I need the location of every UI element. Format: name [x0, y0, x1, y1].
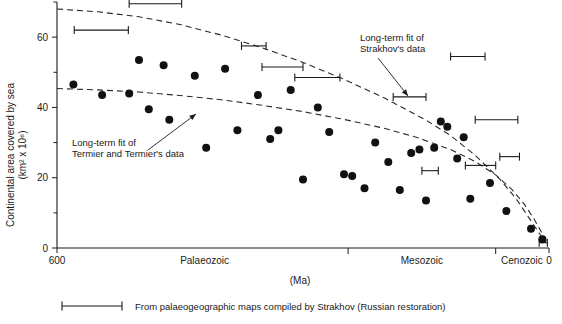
- strakhov-fit-annotation: Long-term fit ofStrakhov's data: [360, 32, 426, 96]
- error-bar: [465, 161, 495, 169]
- data-point: [502, 207, 510, 215]
- data-point: [98, 91, 106, 99]
- data-point: [191, 72, 199, 80]
- data-point: [361, 184, 369, 192]
- figure-continental-area-covered-by-sea: Continental area covered by sea (km² x 1…: [0, 0, 562, 324]
- x-tick-label-0: 0: [546, 255, 552, 266]
- x-axis-title: (Ma): [290, 275, 311, 286]
- fit-curves: [57, 9, 547, 244]
- x-axis-ticks: [57, 248, 549, 254]
- data-point: [384, 158, 392, 166]
- legend-error-bar-marker: [62, 302, 122, 311]
- data-point: [396, 186, 404, 194]
- y-axis-ticks: [52, 2, 57, 248]
- data-point: [407, 149, 415, 157]
- data-point: [69, 81, 77, 89]
- data-point: [348, 172, 356, 180]
- data-point: [254, 91, 262, 99]
- data-point: [299, 176, 307, 184]
- data-point: [125, 89, 133, 97]
- error-bar: [500, 153, 520, 161]
- era-labels: PalaeozoicMesozoicCenozoic: [180, 255, 543, 266]
- fit-curve-termier: [57, 89, 547, 244]
- y-tick-label: 0: [42, 243, 48, 254]
- axes: [57, 2, 549, 248]
- fit-curve-strakhov: [57, 9, 546, 242]
- data-point: [233, 126, 241, 134]
- x-tick-label-600: 600: [49, 255, 66, 266]
- annotation-arrowhead: [402, 89, 408, 96]
- data-point: [460, 133, 468, 141]
- data-point: [527, 225, 535, 233]
- data-point: [443, 123, 451, 131]
- annotation-line1: Long-term fit of: [360, 32, 424, 43]
- error-bar: [262, 63, 303, 71]
- era-label: Cenozoic: [501, 255, 543, 266]
- data-point: [145, 105, 153, 113]
- y-axis-title: Continental area covered by sea (km² x 1…: [5, 83, 28, 227]
- y-axis-title-line1: Continental area covered by sea: [5, 83, 16, 227]
- legend-label: From palaeogeographic maps compiled by S…: [135, 301, 445, 312]
- y-tick-label: 20: [37, 172, 49, 183]
- data-point: [274, 126, 282, 134]
- data-point: [314, 103, 322, 111]
- data-point: [453, 154, 461, 162]
- termier-fit-annotation: Long-term fit ofTermier and Termier's da…: [72, 114, 196, 159]
- annotation-arrowhead: [189, 114, 196, 120]
- error-bar: [393, 93, 426, 101]
- annotation-line2: Termier and Termier's data: [72, 148, 185, 159]
- error-bar: [422, 167, 438, 175]
- y-axis-tick-labels: 0204060: [37, 32, 49, 254]
- y-tick-label: 60: [37, 32, 49, 43]
- annotation-leader-line: [378, 58, 408, 96]
- annotation-line2: Strakhov's data: [360, 43, 426, 54]
- data-point: [287, 86, 295, 94]
- error-bar: [74, 26, 128, 34]
- data-point: [466, 195, 474, 203]
- data-point: [135, 56, 143, 64]
- error-bar: [242, 42, 267, 50]
- data-point: [486, 179, 494, 187]
- data-point: [437, 118, 445, 126]
- era-label: Mesozoic: [401, 255, 443, 266]
- data-point: [165, 116, 173, 124]
- data-point: [415, 146, 423, 154]
- error-bar: [451, 52, 485, 60]
- chart-canvas: Continental area covered by sea (km² x 1…: [0, 0, 562, 324]
- data-point: [325, 128, 333, 136]
- data-point: [202, 144, 210, 152]
- era-label: Palaeozoic: [180, 255, 229, 266]
- data-point: [422, 197, 430, 205]
- y-axis-title-line2: (km² x 10⁶): [17, 130, 28, 179]
- y-tick-label: 40: [37, 102, 49, 113]
- error-bar: [475, 116, 518, 124]
- error-bars: [74, 0, 547, 247]
- data-point: [430, 144, 438, 152]
- data-point: [266, 135, 274, 143]
- data-point: [160, 61, 168, 69]
- annotation-line1: Long-term fit of: [72, 137, 136, 148]
- data-point: [340, 170, 348, 178]
- error-bar: [129, 0, 181, 8]
- data-point: [371, 139, 379, 147]
- data-point: [538, 235, 546, 243]
- data-point: [221, 65, 229, 73]
- legend: From palaeogeographic maps compiled by S…: [62, 301, 445, 312]
